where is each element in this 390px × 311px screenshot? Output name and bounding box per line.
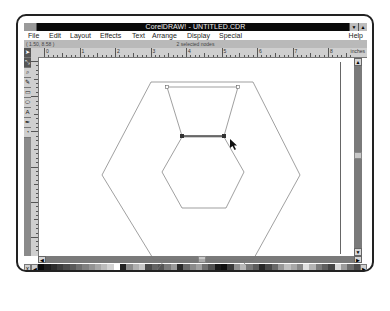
ruler-number: 5 — [224, 48, 227, 54]
ruler-tick — [36, 162, 38, 163]
ruler-tick — [128, 55, 129, 57]
ruler-tick — [151, 48, 152, 57]
ruler-tick — [111, 55, 112, 57]
menu-layout[interactable]: Layout — [70, 31, 91, 40]
ruler-tick — [36, 158, 38, 159]
scroll-left-button[interactable]: ◀ — [38, 256, 46, 263]
ruler-tick — [31, 202, 38, 203]
vertical-scroll-thumb[interactable] — [354, 152, 362, 159]
ruler-tick — [288, 55, 289, 57]
ruler-tick — [84, 55, 85, 57]
ruler-tick — [31, 96, 38, 97]
horizontal-ruler[interactable]: inches 012345678 — [38, 48, 367, 58]
ruler-tick — [213, 55, 214, 57]
ruler-number: 6 — [259, 48, 262, 54]
ruler-tick — [97, 53, 98, 57]
ruler-tick — [36, 171, 38, 172]
ruler-tick — [36, 145, 38, 146]
ruler-tick — [31, 61, 38, 62]
ruler-tick — [146, 55, 147, 57]
scroll-up-button[interactable]: ▲ — [354, 58, 362, 66]
ruler-tick — [36, 233, 38, 234]
menu-text[interactable]: Text — [132, 31, 145, 40]
ruler-tick — [119, 55, 120, 57]
rectangle-tool-button[interactable]: ▭ — [24, 88, 31, 98]
ruler-tick — [155, 55, 156, 57]
color-swatch[interactable] — [354, 264, 361, 272]
ruler-tick — [248, 55, 249, 57]
ruler-tick — [80, 48, 81, 57]
paint-bucket-icon: ◔ — [26, 129, 30, 135]
ruler-tick — [34, 79, 38, 80]
ruler-tick — [31, 237, 38, 238]
ruler-tick — [36, 193, 38, 194]
ruler-tick — [244, 55, 245, 57]
ruler-tick — [62, 53, 63, 57]
rectangle-icon: ▭ — [25, 89, 31, 95]
ruler-tick — [66, 55, 67, 57]
ruler-tick — [341, 55, 342, 57]
ruler-tick — [36, 70, 38, 71]
ruler-tick — [293, 48, 294, 57]
menu-display[interactable]: Display — [187, 31, 210, 40]
ruler-tick — [36, 211, 38, 212]
window-title: CorelDRAW! - UNTITLED.CDR — [24, 23, 367, 31]
pen-nib-icon: ✒ — [25, 119, 30, 125]
vertical-scrollbar[interactable]: ▲ ▼ — [354, 58, 362, 256]
maximize-button[interactable]: ▲ — [358, 23, 367, 31]
ruler-tick — [36, 140, 38, 141]
ruler-number: 2 — [117, 48, 120, 54]
horizontal-scroll-thumb[interactable] — [198, 256, 206, 263]
ruler-tick — [324, 55, 325, 57]
vertical-ruler[interactable] — [31, 57, 39, 256]
ruler-tick — [186, 48, 187, 57]
minimize-icon: ▼ — [352, 24, 357, 30]
ruler-tick — [75, 55, 76, 57]
ruler-number: 7 — [295, 48, 298, 54]
ruler-tick — [31, 131, 38, 132]
ruler-tick — [36, 189, 38, 190]
ellipse-tool-button[interactable]: ⬭ — [24, 98, 31, 108]
ruler-tick — [36, 87, 38, 88]
palette-scroll-left[interactable]: ◀ — [31, 264, 38, 272]
ruler-tick — [34, 149, 38, 150]
scroll-down-button[interactable]: ▼ — [354, 248, 362, 256]
menu-effects[interactable]: Effects — [100, 31, 121, 40]
shape-tool-button[interactable]: ⤡ — [24, 58, 31, 68]
magnifier-icon: ⌕ — [26, 69, 29, 75]
ruler-tick — [226, 55, 227, 57]
drawing-canvas[interactable] — [39, 58, 352, 255]
menu-help[interactable]: Help — [349, 31, 363, 40]
ruler-tick — [301, 55, 302, 57]
fill-tool-button[interactable]: ◔ — [24, 128, 31, 138]
ruler-tick — [284, 55, 285, 57]
menu-edit[interactable]: Edit — [49, 31, 61, 40]
pick-tool-button[interactable]: ➤ — [24, 48, 31, 58]
outline-tool-button[interactable]: ✒ — [24, 118, 31, 128]
horizontal-scrollbar[interactable]: ◀ ▶ — [38, 256, 362, 263]
pencil-tool-button[interactable]: ✎ — [24, 78, 31, 88]
ruler-tick — [270, 55, 271, 57]
ruler-tick — [36, 215, 38, 216]
ruler-tick — [53, 55, 54, 57]
ruler-tick — [190, 55, 191, 57]
menu-arrange[interactable]: Arrange — [152, 31, 177, 40]
text-tool-button[interactable]: A — [24, 108, 31, 118]
ruler-tick — [44, 48, 45, 57]
no-fill-swatch[interactable]: X — [24, 264, 31, 272]
menu-special[interactable]: Special — [219, 31, 242, 40]
ruler-tick — [36, 228, 38, 229]
ruler-tick — [36, 153, 38, 154]
ruler-tick — [36, 92, 38, 93]
toolbox: ➤ ⤡ ⌕ ✎ ▭ ⬭ A ✒ ◔ — [24, 48, 31, 256]
minimize-button[interactable]: ▼ — [349, 23, 358, 31]
scroll-right-button[interactable]: ▶ — [354, 256, 362, 263]
ruler-tick — [332, 55, 333, 57]
zoom-tool-button[interactable]: ⌕ — [24, 68, 31, 78]
ruler-number: 3 — [153, 48, 156, 54]
ruler-tick — [337, 55, 338, 57]
pick-arrow-icon: ➤ — [25, 49, 30, 55]
palette-scroll-right[interactable]: ▶ — [360, 264, 367, 272]
menu-file[interactable]: File — [28, 31, 39, 40]
ruler-tick — [36, 197, 38, 198]
